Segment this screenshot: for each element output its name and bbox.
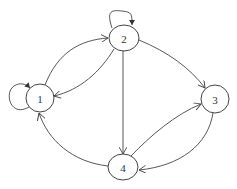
edge-3-4 — [139, 113, 213, 170]
node-4-label: 4 — [120, 162, 126, 174]
edge-4-1 — [39, 113, 108, 166]
node-2-label: 2 — [121, 33, 127, 45]
node-4: 4 — [108, 154, 138, 180]
node-1-label: 1 — [37, 93, 43, 105]
node-1: 1 — [26, 84, 54, 112]
node-2: 2 — [109, 25, 139, 51]
node-3: 3 — [201, 85, 229, 113]
graph-canvas: 1 2 3 4 — [0, 0, 237, 189]
edge-2-3 — [139, 40, 205, 88]
edge-1-2 — [45, 38, 108, 85]
edge-4-3 — [131, 104, 201, 156]
node-3-label: 3 — [212, 94, 218, 106]
